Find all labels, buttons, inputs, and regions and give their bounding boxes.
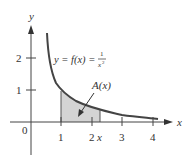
x-axis-arrow-icon: [164, 119, 173, 125]
x-axis-label: x: [176, 116, 182, 128]
equation-numerator: 1: [100, 50, 104, 58]
x-tick-label-1: 1: [58, 131, 64, 143]
equation-label: y = f(x) =: [53, 54, 95, 66]
equation-exponent: 2: [102, 60, 105, 65]
x-variable-tick-label: x: [96, 131, 102, 143]
y-axis-arrow-icon: [28, 25, 34, 34]
x-tick-label-4: 4: [150, 131, 156, 143]
y-tick-label-1: 1: [16, 84, 22, 96]
y-axis-label: y: [28, 10, 34, 22]
y-tick-label-2: 2: [16, 52, 22, 64]
origin-label: 0: [22, 124, 28, 136]
x-tick-label-2: 2: [89, 131, 95, 143]
area-label: A(x): [91, 79, 111, 92]
x-tick-label-3: 3: [119, 131, 125, 143]
area-under-curve-diagram: y x 0 1 2 x 3 4 1 2 y = f(x) = 1 x 2 A(x…: [0, 0, 194, 161]
